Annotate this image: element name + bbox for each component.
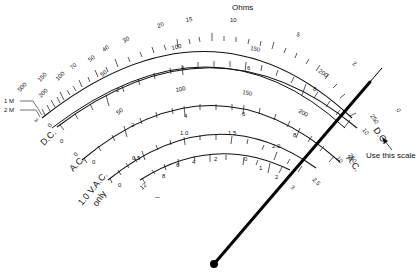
side-label-dc: D.C. — [38, 128, 58, 148]
dc-label-200: 200 — [317, 68, 329, 79]
ohms-label-5: 5 — [296, 31, 302, 38]
ac10-label-2.0: 2.0 — [272, 143, 281, 149]
right-label-dc: D.C. — [371, 125, 390, 145]
ohms-label-100: 100 — [54, 70, 66, 82]
ohms-label-infinity: ∞ — [32, 116, 39, 123]
dc-label-inner-0: 0 — [60, 138, 64, 144]
right-label-dc-num: 10 — [361, 127, 370, 136]
ac10-label-inner-3: 3 — [289, 184, 296, 191]
ac-label-inner-6: 6 — [242, 111, 246, 117]
ohms-label-10: 10 — [230, 17, 237, 23]
ac10-label-inner-1: 1 — [259, 165, 263, 171]
ohms-label-0: 0 — [395, 107, 402, 114]
ac-label-100: 100 — [175, 85, 187, 93]
ac-labels: 0 50 100 150 200 250 0 2 4 6 8 — [72, 85, 358, 165]
ac10-label-0: 0 — [118, 182, 122, 188]
ac10-labels: 0 0.5 1.0 1.5 2.0 2.5 12 8 6 4 2 0 1 2 3… — [118, 130, 322, 201]
ac10-label-0.5: 0.5 — [132, 155, 141, 161]
meter-face: Ohms — [0, 0, 420, 272]
right-label-ac-num: 10 — [335, 155, 344, 164]
ac10-label-inner-6: 6 — [176, 162, 180, 168]
ohms-label-15: 15 — [185, 16, 193, 23]
ac10-label-inner-8: 8 — [162, 173, 166, 179]
ac-label-150: 150 — [242, 89, 254, 97]
ohms-label-20: 20 — [156, 21, 165, 29]
ac-label-200: 200 — [298, 108, 310, 119]
ac10-label-2.5: 2.5 — [311, 176, 322, 187]
ohms-ticks — [42, 33, 356, 116]
scale-title: Ohms — [232, 3, 253, 12]
ac10-label-1.5: 1.5 — [228, 130, 237, 136]
ohms-label-200: 200 — [37, 87, 49, 99]
ohms-labels: 500 200 150 100 70 50 40 30 20 15 10 5 2… — [16, 16, 402, 114]
ac10-label-1.0: 1.0 — [180, 130, 189, 136]
ohms-label-30: 30 — [122, 35, 131, 44]
dc-label-100: 100 — [171, 43, 183, 51]
ac10-label-inner-4: 4 — [192, 159, 196, 165]
ohms-label-500: 500 — [16, 81, 28, 93]
annotation-text: Use this scale — [366, 151, 416, 160]
ohms-label-150: 150 — [36, 71, 48, 83]
ac-label-inner-0: 0 — [92, 159, 96, 165]
ohms-label-2m: 2 M — [4, 107, 14, 113]
ohms-label-50: 50 — [87, 54, 96, 63]
ohms-label-2: 2 — [351, 60, 358, 67]
dc-label-inner-2: 2 — [116, 87, 120, 93]
ac10-label-inner-2b: 2 — [275, 174, 279, 180]
ohms-leaders — [20, 101, 42, 117]
ohms-label-1m: 1 M — [4, 98, 14, 104]
ac10-db-minus: – — [155, 192, 160, 201]
right-label-ac: A.C. — [344, 153, 362, 173]
side-label-ac: A.C. — [67, 154, 86, 173]
pivot-icon — [210, 260, 218, 268]
dc-label-150: 150 — [250, 45, 262, 53]
ac10-label-inner-12: 12 — [139, 181, 148, 190]
dc-label-inner-6: 6 — [247, 65, 251, 71]
dc-label-250: 250 — [369, 113, 380, 125]
ac-label-inner-4: 4 — [184, 113, 188, 119]
ohms-label-70: 70 — [69, 61, 78, 70]
ac-label-50: 50 — [115, 107, 124, 116]
ohms-label-40: 40 — [101, 44, 110, 53]
ac10-label-inner-0: 0 — [244, 156, 248, 162]
ac10-label-inner-2: 2 — [214, 156, 218, 162]
